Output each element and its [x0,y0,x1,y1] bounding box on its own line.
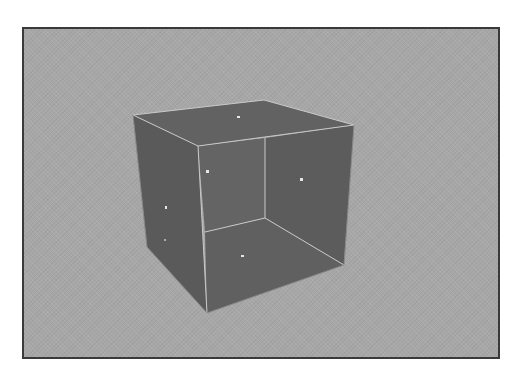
face-dot[interactable] [165,206,167,209]
3d-viewport[interactable] [22,27,500,359]
face-dot[interactable] [241,255,244,257]
cube-inner-back-wall[interactable] [198,138,265,232]
scene-canvas[interactable] [24,29,500,359]
face-dot[interactable] [206,170,209,173]
face-dot[interactable] [237,116,240,118]
face-dot[interactable] [300,178,303,181]
face-dot[interactable] [164,239,166,241]
open-cube[interactable] [133,100,354,313]
